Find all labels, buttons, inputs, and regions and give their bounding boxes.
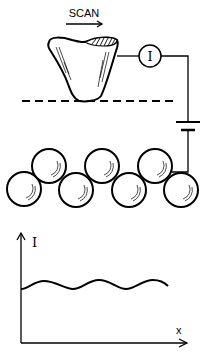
y-axis-label: I — [32, 235, 37, 250]
atom — [112, 173, 146, 207]
ammeter: I — [139, 45, 161, 67]
stm-tip — [48, 37, 118, 101]
ammeter-label: I — [147, 49, 152, 64]
battery-icon — [176, 122, 200, 130]
surface-atoms — [7, 149, 198, 207]
scan-arrow-icon — [66, 21, 102, 27]
current-trace — [21, 280, 168, 289]
scan-label: SCAN — [69, 7, 100, 19]
atom — [164, 173, 198, 207]
stm-diagram: SCAN — [0, 0, 202, 355]
x-axis-label: x — [176, 324, 182, 336]
atom — [85, 149, 119, 183]
atom — [138, 149, 172, 183]
x-axis — [21, 339, 187, 347]
atom — [32, 149, 66, 183]
current-graph: I x — [17, 233, 187, 347]
atom — [59, 173, 93, 207]
